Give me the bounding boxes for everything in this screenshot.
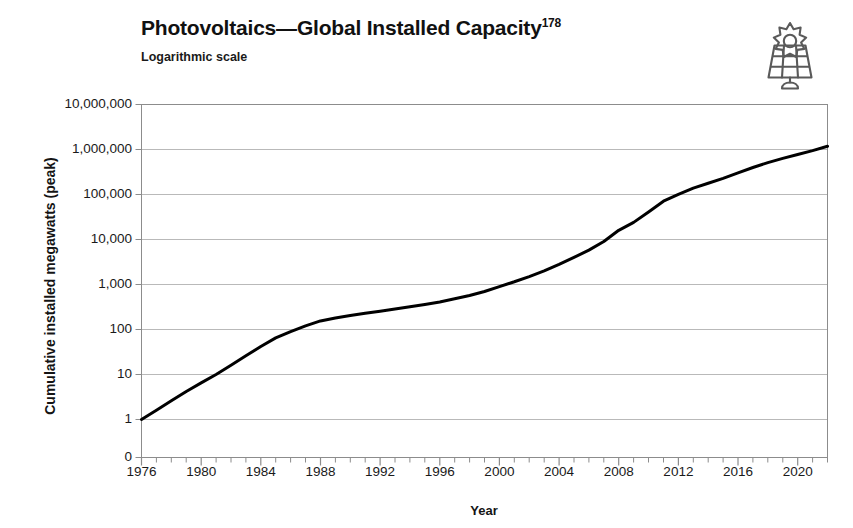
y-axis-tick-label: 1 (36, 411, 132, 426)
y-axis-tick-label: 1,000 (36, 276, 132, 291)
x-axis-tick-label: 2008 (604, 464, 634, 479)
plot-border (142, 105, 828, 458)
x-axis-tick-label: 1992 (365, 464, 395, 479)
x-axis-tick-label: 2012 (663, 464, 693, 479)
y-axis-tick-label: 100,000 (36, 186, 132, 201)
y-axis-tick-label: 10 (36, 366, 132, 381)
y-axis-tick-labels: 01101001,00010,000100,0001,000,00010,000… (36, 0, 132, 528)
x-axis-tick-label: 2000 (484, 464, 514, 479)
x-axis-tick-labels: 1976198019841988199219962000200420082012… (0, 464, 853, 486)
y-axis-tick-label: 10,000,000 (36, 96, 132, 111)
gridlines (142, 105, 828, 420)
x-axis-tick-label: 1988 (305, 464, 335, 479)
y-axis-tick-label: 1,000,000 (36, 141, 132, 156)
y-axis-tick-marks (136, 105, 142, 458)
x-axis-tick-label: 2004 (544, 464, 574, 479)
x-axis-minor-ticks (156, 458, 827, 463)
x-axis-tick-label: 2016 (723, 464, 753, 479)
x-axis-tick-label: 1980 (186, 464, 216, 479)
x-axis-tick-label: 1996 (425, 464, 455, 479)
x-axis-tick-label: 1984 (246, 464, 276, 479)
y-axis-tick-label: 100 (36, 321, 132, 336)
data-series-line (142, 146, 828, 419)
y-axis-tick-label: 0 (36, 449, 132, 464)
x-axis-tick-label: 2020 (783, 464, 813, 479)
chart-figure: Photovoltaics—Global Installed Capacity1… (0, 0, 853, 528)
x-axis-tick-label: 1976 (126, 464, 156, 479)
y-axis-tick-label: 10,000 (36, 231, 132, 246)
